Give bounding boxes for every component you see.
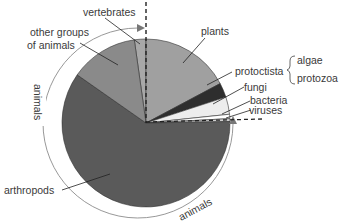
label-animals-left: animals: [32, 84, 44, 120]
label-vertebrates: vertebrates: [83, 6, 136, 18]
label-protozoa: protozoa: [297, 72, 338, 84]
label-plants: plants: [201, 25, 229, 37]
label-other-groups-line2: of animals: [27, 39, 75, 51]
brace-icon: [287, 56, 295, 84]
arrow-head-top: [137, 24, 145, 32]
label-viruses: viruses: [249, 104, 282, 116]
label-arthropods: arthropods: [4, 184, 54, 196]
label-protoctista: protoctista: [235, 65, 283, 77]
label-fungi: fungi: [244, 81, 267, 93]
label-algae: algae: [297, 54, 323, 66]
label-other-groups-line1: other groups: [30, 26, 89, 38]
